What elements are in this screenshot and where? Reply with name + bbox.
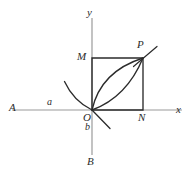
point-label-p: P bbox=[137, 39, 144, 50]
point-label-b-endpoint: B bbox=[87, 156, 94, 167]
rectangle-ompn bbox=[92, 58, 143, 110]
point-label-m: M bbox=[77, 51, 86, 62]
point-label-a-endpoint: A bbox=[9, 102, 16, 113]
point-label-n: N bbox=[138, 112, 145, 123]
figure-canvas bbox=[0, 0, 193, 181]
segment-label-a: a bbox=[47, 97, 52, 107]
arc-upper-left bbox=[92, 58, 143, 110]
geometry-figure: y x A B O M N P a b bbox=[0, 0, 193, 181]
line-below-origin bbox=[92, 110, 110, 129]
parabola-left-branch bbox=[65, 82, 93, 111]
segment-label-b: b bbox=[85, 122, 90, 132]
x-axis-label: x bbox=[176, 104, 181, 115]
arc-lower-right bbox=[92, 58, 143, 110]
y-axis-label: y bbox=[87, 7, 92, 18]
